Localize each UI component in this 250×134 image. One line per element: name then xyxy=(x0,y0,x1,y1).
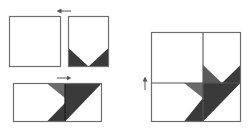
plain-square xyxy=(10,17,61,67)
joined-strip xyxy=(14,84,102,122)
quilt-assembly-diagram xyxy=(0,0,250,134)
finished-block xyxy=(152,33,241,122)
v-triangle-rectangle xyxy=(69,17,109,67)
